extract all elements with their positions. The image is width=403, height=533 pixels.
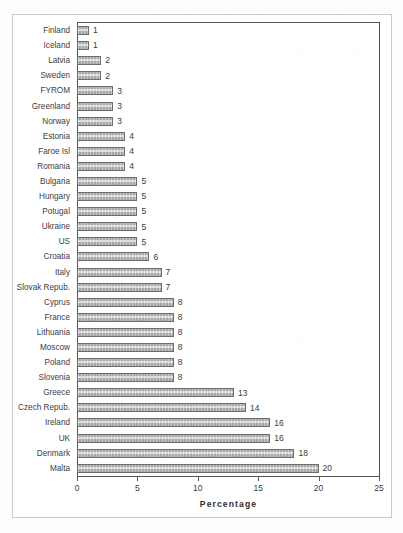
x-axis-tick-label: 25 bbox=[374, 483, 383, 493]
y-axis-label: Malta bbox=[0, 462, 74, 475]
bar-row: 5 bbox=[77, 175, 379, 188]
bar-row: 1 bbox=[77, 24, 379, 37]
y-axis-label: Iceland bbox=[0, 39, 74, 52]
bar bbox=[77, 388, 234, 397]
y-axis-label: Cyprus bbox=[0, 296, 74, 309]
y-axis-label: Norway bbox=[0, 115, 74, 128]
bar-rows: 112233344455555677888888131416161820 bbox=[77, 23, 379, 476]
bar-value-label: 4 bbox=[129, 132, 134, 141]
bar bbox=[77, 26, 89, 35]
y-axis-label: Romania bbox=[0, 160, 74, 173]
y-axis-label: Ukraine bbox=[0, 220, 74, 233]
y-axis-label: Slovenia bbox=[0, 371, 74, 384]
bar-value-label: 16 bbox=[274, 419, 283, 428]
bar-row: 8 bbox=[77, 326, 379, 339]
bar bbox=[77, 298, 174, 307]
y-axis-label: Latvia bbox=[0, 54, 74, 67]
bar-value-label: 5 bbox=[141, 238, 146, 247]
bar-value-label: 8 bbox=[178, 343, 183, 352]
bar-value-label: 14 bbox=[250, 404, 259, 413]
bar bbox=[77, 358, 174, 367]
bar-value-label: 1 bbox=[93, 41, 98, 50]
bar bbox=[77, 252, 149, 261]
bar-row: 4 bbox=[77, 145, 379, 158]
bar bbox=[77, 102, 113, 111]
x-axis-tick bbox=[258, 477, 259, 481]
bar bbox=[77, 328, 174, 337]
y-axis-label: Potugal bbox=[0, 205, 74, 218]
bar-row: 6 bbox=[77, 250, 379, 263]
bar-row: 4 bbox=[77, 160, 379, 173]
bar-value-label: 13 bbox=[238, 389, 247, 398]
bar-row: 18 bbox=[77, 447, 379, 460]
y-axis-label: Hungary bbox=[0, 190, 74, 203]
y-axis-label: US bbox=[0, 235, 74, 248]
bar-value-label: 8 bbox=[178, 358, 183, 367]
y-axis-label: Slovak Repub. bbox=[0, 281, 74, 294]
bar bbox=[77, 56, 101, 65]
x-axis-tick bbox=[198, 477, 199, 481]
y-axis-label: Poland bbox=[0, 356, 74, 369]
bar bbox=[77, 313, 174, 322]
bar bbox=[77, 132, 125, 141]
bar-value-label: 6 bbox=[153, 253, 158, 262]
x-axis-tick bbox=[319, 477, 320, 481]
bar-row: 3 bbox=[77, 115, 379, 128]
bar bbox=[77, 373, 174, 382]
bar-value-label: 5 bbox=[141, 223, 146, 232]
bar-row: 5 bbox=[77, 190, 379, 203]
x-axis-tick-label: 10 bbox=[193, 483, 202, 493]
bar-chart: FinlandIcelandLatviaSwedenFYROMGreenland… bbox=[0, 0, 403, 533]
bar-value-label: 5 bbox=[141, 207, 146, 216]
bar-value-label: 3 bbox=[117, 87, 122, 96]
y-axis-label: Bulgaria bbox=[0, 175, 74, 188]
y-axis-category-labels: FinlandIcelandLatviaSwedenFYROMGreenland… bbox=[0, 23, 74, 476]
bar-row: 2 bbox=[77, 54, 379, 67]
bar-value-label: 4 bbox=[129, 162, 134, 171]
bar-row: 5 bbox=[77, 235, 379, 248]
x-axis-title: Percentage bbox=[77, 499, 380, 509]
bar-row: 5 bbox=[77, 220, 379, 233]
bar bbox=[77, 147, 125, 156]
bar-row: 3 bbox=[77, 84, 379, 97]
bar bbox=[77, 268, 162, 277]
bar-value-label: 3 bbox=[117, 102, 122, 111]
bar-value-label: 20 bbox=[323, 464, 332, 473]
x-axis-tick bbox=[77, 477, 78, 481]
bar-row: 16 bbox=[77, 432, 379, 445]
bar-value-label: 1 bbox=[93, 26, 98, 35]
bar bbox=[77, 403, 246, 412]
x-axis-tick bbox=[379, 477, 380, 481]
bar bbox=[77, 237, 137, 246]
y-axis-label: Italy bbox=[0, 266, 74, 279]
x-axis-tick-labels: 0510152025 bbox=[77, 483, 380, 495]
bar bbox=[77, 162, 125, 171]
y-axis-label: Faroe Isl bbox=[0, 145, 74, 158]
bar-row: 2 bbox=[77, 69, 379, 82]
bar-row: 8 bbox=[77, 296, 379, 309]
bar-value-label: 4 bbox=[129, 147, 134, 156]
y-axis-label: Lithuania bbox=[0, 326, 74, 339]
bar-row: 7 bbox=[77, 281, 379, 294]
bar-value-label: 2 bbox=[105, 56, 110, 65]
bar bbox=[77, 449, 294, 458]
x-axis-tick-label: 5 bbox=[135, 483, 140, 493]
bar-value-label: 5 bbox=[141, 192, 146, 201]
bar-value-label: 16 bbox=[274, 434, 283, 443]
x-axis-tick bbox=[137, 477, 138, 481]
bar-row: 1 bbox=[77, 39, 379, 52]
bar-row: 16 bbox=[77, 416, 379, 429]
bar bbox=[77, 283, 162, 292]
bar-row: 8 bbox=[77, 356, 379, 369]
bar bbox=[77, 207, 137, 216]
bar-row: 20 bbox=[77, 462, 379, 475]
bar-value-label: 7 bbox=[166, 268, 171, 277]
x-axis-tick-label: 0 bbox=[75, 483, 80, 493]
y-axis-label: UK bbox=[0, 432, 74, 445]
bar-value-label: 5 bbox=[141, 177, 146, 186]
y-axis-label: Greenland bbox=[0, 100, 74, 113]
bar-value-label: 8 bbox=[178, 313, 183, 322]
bar bbox=[77, 418, 270, 427]
y-axis-label: Croatia bbox=[0, 250, 74, 263]
bar-row: 8 bbox=[77, 311, 379, 324]
